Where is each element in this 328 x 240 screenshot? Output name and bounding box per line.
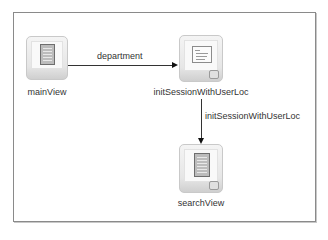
- node-label: mainView: [16, 87, 78, 97]
- arrowhead-icon: [172, 62, 178, 68]
- node-initSessionWithUserLoc[interactable]: initSessionWithUserLoc: [179, 35, 223, 97]
- edge-department-line[interactable]: [68, 65, 172, 66]
- activity-badge-icon: [209, 70, 219, 79]
- page-view-icon: [179, 144, 223, 193]
- edge-label-department: department: [97, 51, 143, 61]
- node-label: initSessionWithUserLoc: [149, 87, 253, 97]
- page-badge-icon: [209, 181, 219, 190]
- edge-label-initSessionWithUserLoc: initSessionWithUserLoc: [205, 111, 300, 121]
- node-label: searchView: [169, 198, 233, 208]
- edge-initSessionWithUserLoc-line[interactable]: [201, 99, 202, 138]
- node-mainView[interactable]: mainView: [26, 36, 68, 98]
- method-call-activity-icon: [179, 35, 223, 82]
- node-searchView[interactable]: searchView: [179, 144, 223, 208]
- page-view-icon: [26, 36, 68, 80]
